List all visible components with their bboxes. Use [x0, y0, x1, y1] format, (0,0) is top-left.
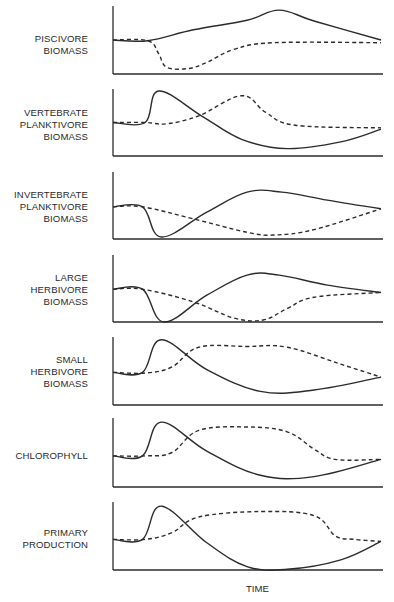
- solid-line: [113, 273, 381, 322]
- panel-3: [113, 255, 383, 322]
- solid-line: [113, 506, 381, 570]
- solid-line: [113, 422, 381, 479]
- panel-label-vertebrate-planktivore: VERTEBRATE PLANKTIVORE BIOMASS: [0, 107, 88, 143]
- solid-line: [113, 91, 381, 149]
- trophic-cascade-figure: PISCIVORE BIOMASS VERTEBRATE PLANKTIVORE…: [0, 0, 394, 602]
- dashed-line: [113, 39, 381, 69]
- panel-4: [113, 337, 383, 405]
- panel-label-primary-production: PRIMARY PRODUCTION: [0, 527, 88, 551]
- panel-0: [113, 6, 383, 74]
- panel-label-chlorophyll: CHLOROPHYLL: [0, 450, 88, 462]
- panel-label-invertebrate-planktivore: INVERTEBRATE PLANKTIVORE BIOMASS: [0, 189, 88, 225]
- x-axis-title: TIME: [246, 583, 269, 594]
- dashed-line: [113, 96, 381, 128]
- solid-line: [113, 340, 381, 394]
- panel-label-piscivore: PISCIVORE BIOMASS: [0, 33, 88, 57]
- dashed-line: [113, 288, 381, 321]
- panel-2: [113, 172, 383, 239]
- solid-line: [113, 190, 381, 237]
- panel-1: [113, 89, 383, 156]
- panel-5: [113, 418, 383, 487]
- solid-line: [113, 10, 381, 41]
- panel-label-small-herbivore: SMALL HERBIVORE BIOMASS: [0, 354, 88, 390]
- dashed-line: [113, 511, 381, 541]
- panel-label-large-herbivore: LARGE HERBIVORE BIOMASS: [0, 272, 88, 308]
- panel-6: [113, 502, 383, 570]
- dashed-line: [113, 345, 381, 377]
